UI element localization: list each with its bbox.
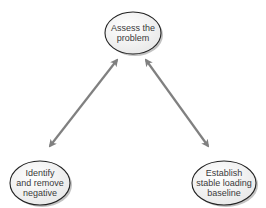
cycle-diagram: Assess the problem Identify and remove n…: [0, 0, 266, 208]
edge-assess-establish: [146, 60, 208, 146]
node-label-identify: Identify and remove negative: [10, 162, 70, 204]
node-label-assess: Assess the problem: [105, 13, 161, 53]
node-label-establish: Establish stable loading baseline: [192, 162, 256, 204]
edge-assess-identify: [50, 60, 117, 146]
